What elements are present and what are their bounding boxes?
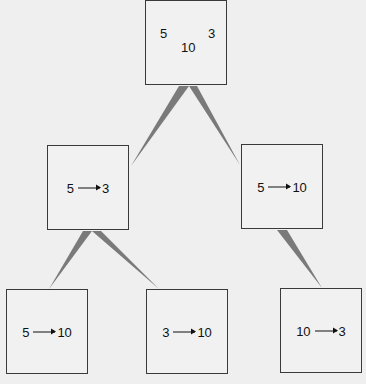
transition-to: 3 [339, 323, 346, 338]
node-level2-middle: 3 10 [146, 289, 228, 374]
transition-from: 5 [22, 324, 29, 339]
node-level1-right: 5 10 [241, 144, 323, 229]
transition-to: 3 [102, 180, 109, 195]
transition-to: 10 [292, 179, 306, 194]
connector-left-bottomleft [49, 231, 92, 289]
arrow-right-icon [173, 331, 195, 332]
node-level2-right: 10 3 [280, 288, 362, 373]
transition-from: 5 [67, 180, 74, 195]
arrow-right-icon [268, 186, 290, 187]
root-value-right: 3 [208, 27, 215, 40]
transition-to: 10 [57, 324, 71, 339]
transition: 5 10 [242, 179, 322, 194]
transition: 5 3 [48, 180, 128, 195]
connector-left-bottommid [92, 231, 159, 289]
connector-root-left [131, 86, 189, 166]
transition-from: 5 [257, 179, 264, 194]
root-value-bottom: 10 [181, 41, 195, 54]
transition-from: 3 [162, 324, 169, 339]
arrow-right-icon [315, 330, 337, 331]
root-node: 5 3 10 [145, 0, 227, 85]
connector-right-bottomright [277, 230, 322, 288]
connector-root-right [189, 86, 240, 165]
root-value-left: 5 [160, 27, 167, 40]
transition-to: 10 [197, 324, 211, 339]
node-level2-left: 5 10 [6, 289, 88, 374]
transition: 5 10 [7, 324, 87, 339]
arrow-right-icon [33, 331, 55, 332]
node-level1-left: 5 3 [47, 145, 129, 230]
arrow-right-icon [78, 187, 100, 188]
transition-from: 10 [296, 323, 310, 338]
transition: 3 10 [147, 324, 227, 339]
transition: 10 3 [281, 323, 361, 338]
